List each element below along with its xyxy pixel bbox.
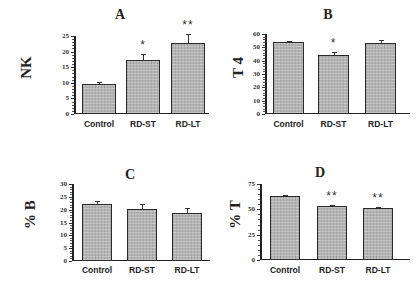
y-minor-tick xyxy=(263,98,265,99)
error-cap xyxy=(376,207,381,208)
x-category-label: Control xyxy=(77,119,121,129)
y-minor-tick xyxy=(72,80,74,81)
y-minor-tick xyxy=(263,109,265,110)
bar-rd-lt xyxy=(172,213,202,261)
x-category-label: RD-ST xyxy=(310,265,354,275)
y-tick xyxy=(262,87,265,88)
y-minor-tick xyxy=(72,48,74,49)
x-category-label: RD-ST xyxy=(120,265,164,275)
y-tick xyxy=(69,197,72,198)
y-minor-tick xyxy=(70,194,72,195)
y-axis xyxy=(260,184,262,260)
y-tick xyxy=(71,98,74,99)
y-tick xyxy=(69,261,72,262)
y-tick xyxy=(262,47,265,48)
y-minor-tick xyxy=(258,240,260,241)
error-cap xyxy=(186,34,191,35)
x-category-label: RD-LT xyxy=(359,119,403,129)
y-tick-label: 50 xyxy=(241,205,255,213)
y-tick xyxy=(262,114,265,115)
y-tick xyxy=(257,260,260,261)
x-category-label: RD-LT xyxy=(356,265,400,275)
panel-title: D xyxy=(310,165,330,181)
x-category-label: RD-ST xyxy=(312,119,356,129)
y-axis xyxy=(72,184,74,261)
significance-marker: * xyxy=(319,36,349,50)
y-minor-tick xyxy=(263,71,265,72)
y-minor-tick xyxy=(263,53,265,54)
y-tick-label: 30 xyxy=(53,180,67,188)
y-tick xyxy=(71,52,74,53)
y-tick xyxy=(262,61,265,62)
y-minor-tick xyxy=(263,95,265,96)
x-category-label: Control xyxy=(263,265,307,275)
y-minor-tick xyxy=(70,192,72,193)
y-tick xyxy=(257,184,260,185)
y-minor-tick xyxy=(263,42,265,43)
y-axis xyxy=(265,34,267,114)
y-tick-label: 20 xyxy=(246,83,260,91)
y-minor-tick xyxy=(258,199,260,200)
y-minor-tick xyxy=(70,207,72,208)
y-minor-tick xyxy=(70,246,72,247)
y-tick-label: 25 xyxy=(241,231,255,239)
y-minor-tick xyxy=(263,79,265,80)
error-cap xyxy=(332,52,337,53)
y-minor-tick xyxy=(70,217,72,218)
y-minor-tick xyxy=(70,199,72,200)
y-tick-label: 0 xyxy=(246,110,260,118)
y-minor-tick xyxy=(263,39,265,40)
y-tick-label: 30 xyxy=(246,70,260,78)
y-axis-label: % B xyxy=(22,195,39,235)
y-minor-tick xyxy=(70,202,72,203)
y-tick xyxy=(262,74,265,75)
error-cap xyxy=(283,195,288,196)
y-minor-tick xyxy=(263,77,265,78)
y-minor-tick xyxy=(258,230,260,231)
y-minor-tick xyxy=(70,187,72,188)
y-minor-tick xyxy=(263,90,265,91)
y-minor-tick xyxy=(72,73,74,74)
bar-control xyxy=(273,42,304,114)
y-minor-tick xyxy=(70,225,72,226)
error-cap xyxy=(140,204,145,205)
error-cap xyxy=(379,40,384,41)
y-minor-tick xyxy=(258,250,260,251)
y-minor-tick xyxy=(70,240,72,241)
y-minor-tick xyxy=(258,255,260,256)
y-minor-tick xyxy=(72,64,74,65)
y-tick xyxy=(257,235,260,236)
error-cap xyxy=(97,82,102,83)
bar-rd-st xyxy=(127,209,157,261)
y-tick-label: 15 xyxy=(53,219,67,227)
x-category-label: RD-LT xyxy=(165,265,209,275)
y-minor-tick xyxy=(72,86,74,87)
y-tick-label: 0 xyxy=(53,257,67,265)
y-minor-tick xyxy=(70,258,72,259)
panel-title: C xyxy=(120,167,140,183)
error-cap xyxy=(330,205,335,206)
y-tick xyxy=(69,184,72,185)
panel-title: A xyxy=(110,7,130,23)
y-axis-label: NK xyxy=(18,48,35,88)
y-minor-tick xyxy=(263,58,265,59)
y-minor-tick xyxy=(72,42,74,43)
y-minor-tick xyxy=(72,89,74,90)
y-tick xyxy=(257,209,260,210)
plot-area: 051015202530 xyxy=(72,184,210,261)
y-tick-label: 20 xyxy=(55,48,69,56)
x-category-label: Control xyxy=(267,119,311,129)
y-tick xyxy=(71,36,74,37)
bar-rd-st xyxy=(317,206,347,260)
bar-rd-lt xyxy=(171,43,205,114)
y-minor-tick xyxy=(72,61,74,62)
bar-control xyxy=(82,204,112,261)
x-category-label: RD-LT xyxy=(166,119,210,129)
significance-marker: ** xyxy=(317,189,347,203)
bar-rd-lt xyxy=(365,43,396,114)
plot-area: 0510152025*** xyxy=(74,36,209,114)
error-cap xyxy=(95,201,100,202)
y-minor-tick xyxy=(263,66,265,67)
bar-control xyxy=(82,84,116,114)
panel-title: B xyxy=(318,7,338,23)
